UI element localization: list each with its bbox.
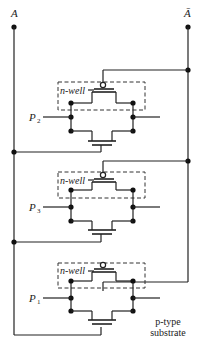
svg-text:P: P bbox=[28, 111, 36, 123]
svg-text:P: P bbox=[28, 201, 36, 213]
rail-label-a: A bbox=[10, 7, 18, 19]
stage-2 bbox=[11, 158, 190, 244]
stage-1 bbox=[11, 67, 190, 154]
rail-label-a-bar: Ā bbox=[183, 7, 191, 19]
n-well-label-2: n-well bbox=[60, 175, 85, 186]
svg-text:P: P bbox=[28, 292, 36, 304]
select-label-p2: P 2 bbox=[28, 111, 41, 125]
svg-text:3: 3 bbox=[37, 207, 41, 215]
n-well-label-3: n-well bbox=[60, 265, 85, 276]
substrate-label-line2: substrate bbox=[150, 327, 186, 338]
select-label-p3: P 3 bbox=[28, 201, 41, 215]
pmos-bubble-icon bbox=[100, 262, 105, 267]
select-label-p1: P 1 bbox=[28, 292, 41, 306]
n-well-label-1: n-well bbox=[60, 85, 85, 96]
circuit-diagram: A Ā bbox=[0, 0, 199, 343]
svg-text:1: 1 bbox=[37, 298, 41, 306]
pmos-bubble-icon bbox=[100, 82, 105, 87]
substrate-label-line1: p-type bbox=[155, 316, 181, 327]
svg-text:2: 2 bbox=[37, 117, 41, 125]
pmos-bubble-icon bbox=[100, 172, 105, 177]
rail-a-bar bbox=[103, 24, 191, 291]
